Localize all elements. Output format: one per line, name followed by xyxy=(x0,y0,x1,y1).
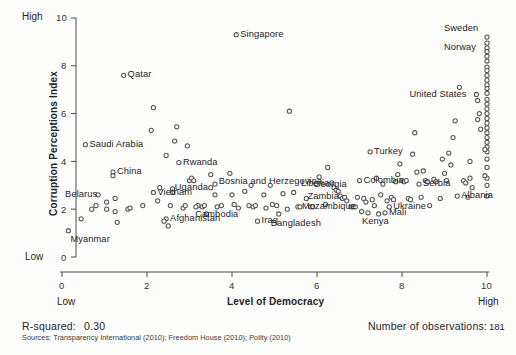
data-point xyxy=(262,193,266,197)
data-point xyxy=(275,204,279,208)
data-point xyxy=(453,119,457,123)
data-point xyxy=(485,78,489,82)
y-tick-label-8: 8 xyxy=(61,60,66,71)
data-point xyxy=(440,157,444,161)
data-point xyxy=(449,163,453,167)
data-point xyxy=(485,157,489,161)
data-point-kenya xyxy=(366,211,370,215)
data-point xyxy=(483,147,487,151)
data-point xyxy=(485,107,489,111)
point-label: Myanmar xyxy=(70,234,109,244)
data-point xyxy=(151,106,155,110)
y-axis-high-label: High xyxy=(22,11,43,22)
data-point xyxy=(232,202,236,206)
data-point xyxy=(168,204,172,208)
data-point xyxy=(485,116,489,120)
data-point xyxy=(485,183,489,187)
data-point xyxy=(128,206,132,210)
point-label: Rwanda xyxy=(183,157,218,167)
y-tick-label-4: 4 xyxy=(61,156,66,167)
data-point xyxy=(115,220,119,224)
x-tick-label-8: 8 xyxy=(399,280,404,291)
y-tick-label-0: 0 xyxy=(61,252,66,263)
y-tick-label-10: 10 xyxy=(56,12,67,23)
data-point-united-states xyxy=(474,92,478,96)
data-point-serbia xyxy=(417,182,421,186)
data-point xyxy=(419,195,423,199)
data-point xyxy=(173,139,177,143)
point-label: Cambodia xyxy=(195,209,238,219)
data-point-albania xyxy=(455,194,459,198)
data-point xyxy=(287,109,291,113)
data-point xyxy=(442,171,446,175)
point-label: Liberia xyxy=(301,178,330,188)
point-label: United States xyxy=(409,89,466,99)
data-point xyxy=(166,224,170,228)
data-point-qatar xyxy=(122,73,126,77)
data-point-singapore xyxy=(234,33,238,37)
data-point xyxy=(185,144,189,148)
data-point-colombia xyxy=(357,178,361,182)
point-label: Albania xyxy=(461,190,493,200)
data-point xyxy=(468,159,472,163)
x-tick-label-4: 4 xyxy=(229,280,234,291)
data-point xyxy=(411,152,415,156)
data-point xyxy=(451,135,455,139)
y-tick-label-2: 2 xyxy=(61,204,66,215)
data-point xyxy=(202,204,206,208)
data-point xyxy=(113,196,117,200)
point-label: Belarus xyxy=(65,189,97,199)
data-point xyxy=(447,151,451,155)
data-point xyxy=(149,128,153,132)
data-point xyxy=(219,204,223,208)
data-point xyxy=(360,209,364,213)
data-point xyxy=(438,196,442,200)
data-point xyxy=(479,127,483,131)
data-point xyxy=(485,49,489,53)
data-point xyxy=(421,169,425,173)
data-point xyxy=(485,41,489,45)
data-point xyxy=(156,199,160,203)
x-tick-label-6: 6 xyxy=(314,280,319,291)
data-point xyxy=(485,73,489,77)
data-point xyxy=(485,165,489,169)
data-point xyxy=(485,126,489,130)
r-squared-label: R-squared: xyxy=(22,320,76,332)
data-point xyxy=(404,178,408,182)
data-point xyxy=(113,209,117,213)
point-label: Singapore xyxy=(240,29,283,39)
data-point-bosnia-and-herzegovina xyxy=(209,172,213,176)
data-point xyxy=(485,140,489,144)
data-point xyxy=(370,198,374,202)
data-point xyxy=(485,97,489,101)
data-point xyxy=(485,91,489,95)
data-point xyxy=(213,193,217,197)
data-point xyxy=(111,174,115,178)
data-point-vietnam xyxy=(151,190,155,194)
point-label: Uganda xyxy=(175,182,208,192)
data-point xyxy=(485,59,489,63)
data-point xyxy=(253,204,257,208)
data-point xyxy=(264,206,268,210)
point-label: Ukraine xyxy=(393,201,426,211)
x-axis-high-label: High xyxy=(478,296,499,307)
data-point xyxy=(485,54,489,58)
data-point xyxy=(285,207,289,211)
data-point xyxy=(485,131,489,135)
data-point xyxy=(355,195,359,199)
y-axis-low-label: Low xyxy=(25,251,43,262)
data-point xyxy=(485,135,489,139)
data-point-myanmar xyxy=(66,229,70,233)
data-point-sweden xyxy=(485,35,489,39)
data-point xyxy=(292,190,296,194)
data-point xyxy=(230,193,234,197)
point-label: Kenya xyxy=(362,216,389,226)
point-label: Serbia xyxy=(423,178,450,188)
data-point xyxy=(485,102,489,106)
data-point-saudi-arabia xyxy=(83,143,87,147)
point-label: Mozambique xyxy=(302,201,356,211)
data-point xyxy=(385,199,389,203)
x-tick-label-2: 2 xyxy=(144,280,149,291)
data-point xyxy=(281,192,285,196)
data-point xyxy=(326,165,330,169)
